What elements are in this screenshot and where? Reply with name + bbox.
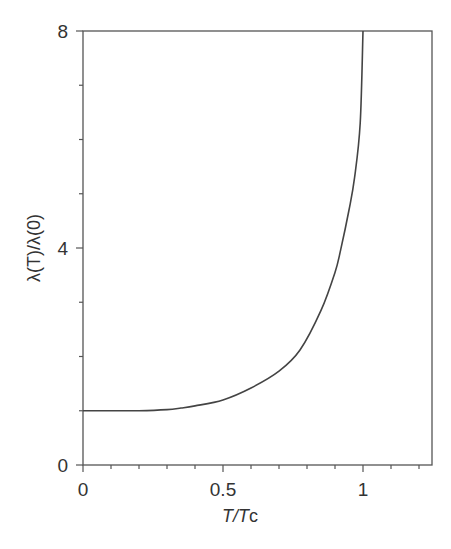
y-tick-label-4: 4 bbox=[57, 238, 68, 259]
y-tick-label-0: 0 bbox=[57, 455, 68, 476]
x-tick-label-1: 1 bbox=[358, 479, 369, 500]
x-axis-label: T/Tc bbox=[222, 506, 258, 526]
x-tick-label-0.5: 0.5 bbox=[210, 479, 236, 500]
x-axis-ticks bbox=[83, 465, 419, 472]
x-tick-label-0: 0 bbox=[78, 479, 89, 500]
y-axis-ticks bbox=[76, 31, 83, 465]
y-tick-label-8: 8 bbox=[57, 21, 68, 42]
y-axis-label: λ(T)/λ(0) bbox=[24, 214, 44, 282]
data-curve bbox=[83, 31, 363, 411]
plot-frame bbox=[83, 31, 432, 465]
x-axis-label-Tc-c: c bbox=[249, 506, 258, 526]
chart: 0 0.5 1 0 4 8 T/Tc λ(T)/λ(0) bbox=[0, 0, 451, 549]
